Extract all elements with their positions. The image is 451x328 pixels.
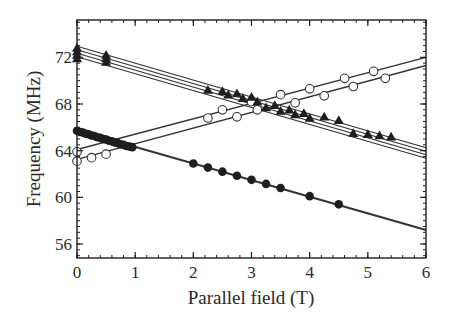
y-axis-tick-labels: 5660646872 — [55, 48, 73, 254]
open-circle-marker — [349, 82, 358, 91]
filled-triangle-marker — [319, 112, 329, 121]
filled-circle-marker — [276, 184, 285, 193]
filled-circle-marker — [189, 159, 198, 168]
y-tick-label: 64 — [55, 142, 73, 161]
y-axis-title: Frequency (MHz) — [23, 71, 45, 208]
open-circle-marker — [253, 106, 262, 115]
open-circle-marker — [87, 153, 96, 162]
open-circle-marker — [369, 67, 378, 76]
filled-circle-marker — [233, 171, 242, 180]
filled-triangle-marker — [232, 89, 242, 98]
x-tick-label: 5 — [364, 263, 373, 282]
filled-circle-marker — [128, 143, 137, 152]
x-tick-label: 4 — [305, 263, 314, 282]
filled-circle-marker — [262, 180, 271, 189]
filled-circle-marker — [218, 167, 227, 176]
y-tick-label: 72 — [55, 48, 72, 67]
open-circle-marker — [320, 92, 329, 101]
open-circle-marker — [204, 114, 213, 123]
open-circle-marker — [381, 74, 390, 83]
open-circle-marker — [102, 150, 111, 159]
filled-circle-marker — [334, 200, 343, 209]
data-markers — [72, 43, 396, 209]
open-circle-marker — [218, 106, 227, 115]
open-circle-marker — [276, 90, 285, 99]
x-tick-label: 1 — [131, 263, 140, 282]
chart: 0123456 5660646872 Parallel field (T) Fr… — [0, 0, 451, 328]
open-circle-marker — [340, 74, 349, 83]
y-tick-label: 60 — [55, 188, 72, 207]
y-tick-label: 68 — [55, 95, 72, 114]
open-circle-marker — [233, 113, 242, 122]
open-circle-marker — [291, 99, 300, 108]
x-tick-label: 0 — [73, 263, 82, 282]
y-tick-label: 56 — [55, 235, 72, 254]
x-axis-title: Parallel field (T) — [188, 287, 315, 309]
x-tick-label: 2 — [189, 263, 198, 282]
x-tick-label: 6 — [422, 263, 431, 282]
x-axis-tick-labels: 0123456 — [73, 263, 431, 282]
filled-circle-marker — [305, 192, 314, 201]
filled-circle-marker — [204, 163, 213, 172]
filled-circle-marker — [247, 176, 256, 185]
open-circle-marker — [305, 85, 314, 94]
x-tick-label: 3 — [247, 263, 256, 282]
filled-triangle-marker — [334, 115, 344, 124]
